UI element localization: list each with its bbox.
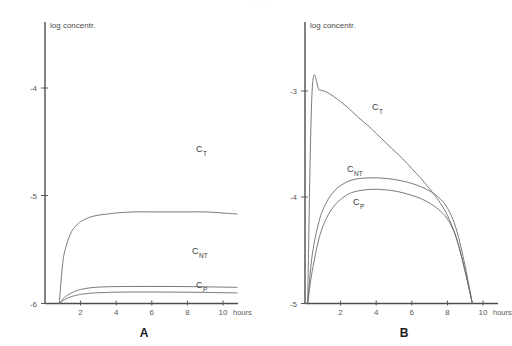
panel-a: -4 -5 -6 2 4 6 8 10 log concentr. hours bbox=[0, 0, 256, 346]
panel-a-xtick-label-0: 2 bbox=[78, 308, 83, 317]
panel-b-series-label-cnt-sub: NT bbox=[354, 170, 363, 177]
panel-b: -3 -4 -5 2 4 6 8 10 log concentr. hours bbox=[256, 0, 512, 346]
panel-b-series-label-ct: C T bbox=[372, 102, 383, 115]
figure-container: -4 -5 -6 2 4 6 8 10 log concentr. hours bbox=[0, 0, 512, 346]
panel-a-xtick-label-4: 10 bbox=[219, 308, 228, 317]
panel-b-series-label-cp-base: C bbox=[353, 197, 360, 207]
panel-b-x-axis-label: hours bbox=[493, 308, 512, 317]
panel-a-series-label-cnt-base: C bbox=[192, 246, 199, 256]
panel-a-series-label-ct: C T bbox=[196, 144, 207, 157]
panel-a-series-label-ct-sub: T bbox=[203, 150, 207, 157]
panel-a-curve-cp bbox=[59, 292, 237, 304]
panel-b-xtick-label-1: 4 bbox=[374, 308, 379, 317]
panel-b-y-axis-label: log concentr. bbox=[310, 21, 355, 30]
panel-a-ytick-label-0: -4 bbox=[30, 84, 38, 93]
panel-b-xtick-label-2: 6 bbox=[410, 308, 415, 317]
panel-b-series-label-cnt: C NT bbox=[347, 164, 363, 177]
panel-a-curve-cnt bbox=[59, 286, 237, 303]
panel-a-series-label-cp: C P bbox=[196, 280, 207, 293]
panel-b-series-label-cp-sub: P bbox=[360, 203, 364, 210]
panel-b-series-label-cnt-base: C bbox=[347, 164, 354, 174]
panel-a-letter: A bbox=[140, 326, 149, 340]
panel-a-curve-ct bbox=[59, 212, 237, 304]
panel-a-xtick-label-1: 4 bbox=[114, 308, 119, 317]
panel-a-plot: -4 -5 -6 2 4 6 8 10 log concentr. hours bbox=[0, 0, 256, 346]
panel-b-plot: -3 -4 -5 2 4 6 8 10 log concentr. hours bbox=[256, 0, 512, 346]
panel-b-xtick-label-0: 2 bbox=[338, 308, 343, 317]
panel-a-series-label-cnt-sub: NT bbox=[199, 252, 208, 259]
panel-a-ytick-label-2: -6 bbox=[30, 300, 38, 309]
panel-b-xtick-label-4: 10 bbox=[479, 308, 488, 317]
panel-b-ytick-label-1: -4 bbox=[290, 193, 298, 202]
panel-a-series-label-cnt: C NT bbox=[192, 246, 208, 259]
panel-b-xtick-label-3: 8 bbox=[445, 308, 450, 317]
panel-b-ytick-label-2: -5 bbox=[290, 300, 298, 309]
panel-b-series-label-cp: C P bbox=[353, 197, 364, 210]
panel-b-curve-cnt bbox=[308, 178, 473, 304]
panel-a-xtick-label-3: 8 bbox=[185, 308, 190, 317]
panel-b-curve-ct bbox=[308, 75, 473, 304]
panel-b-series-label-ct-base: C bbox=[372, 102, 379, 112]
panel-a-xtick-label-2: 6 bbox=[150, 308, 155, 317]
panel-b-series-label-ct-sub: T bbox=[379, 108, 383, 115]
panel-a-ytick-label-1: -5 bbox=[30, 192, 38, 201]
panel-a-series-label-cp-sub: P bbox=[203, 286, 207, 293]
panel-a-series-label-ct-base: C bbox=[196, 144, 203, 154]
panel-b-curve-cp bbox=[308, 189, 473, 303]
panel-b-ytick-label-0: -3 bbox=[290, 87, 298, 96]
panel-a-y-axis-label: log concentr. bbox=[50, 21, 95, 30]
panel-a-series-label-cp-base: C bbox=[196, 280, 203, 290]
panel-a-x-axis-label: hours bbox=[233, 308, 252, 317]
panel-b-letter: B bbox=[400, 326, 409, 340]
